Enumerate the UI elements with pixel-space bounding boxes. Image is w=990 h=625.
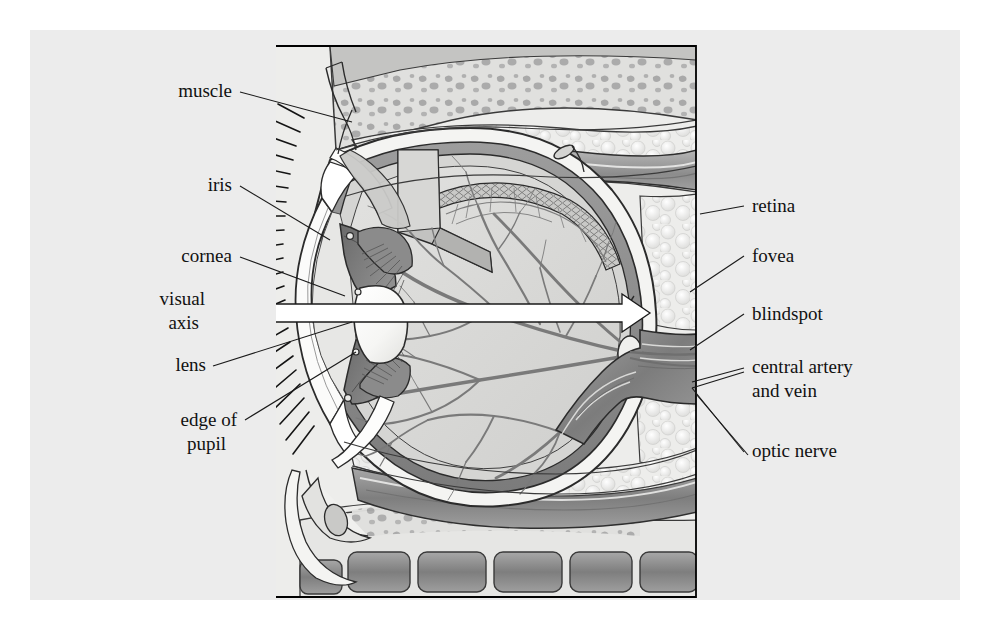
- page-canvas: muscle iris cornea visual axis lens edge…: [0, 0, 990, 625]
- label-visual-axis-line2: axis: [168, 312, 199, 333]
- label-blindspot: blindspot: [752, 303, 823, 324]
- label-cornea: cornea: [181, 245, 232, 266]
- leader-blindspot: [690, 314, 744, 350]
- label-optic-nerve: optic nerve: [752, 440, 837, 461]
- label-edge-of-pupil-line2: pupil: [187, 433, 226, 454]
- label-fovea: fovea: [752, 245, 795, 266]
- label-lens: lens: [175, 354, 206, 375]
- label-visual-axis-line1: visual: [160, 288, 205, 309]
- label-group-right: retina fovea blindspot central artery an…: [752, 195, 853, 461]
- leader-fovea: [690, 256, 744, 292]
- eye-diagram: muscle iris cornea visual axis lens edge…: [0, 0, 990, 625]
- label-iris: iris: [208, 174, 232, 195]
- diagram-content: [250, 40, 702, 602]
- label-central-artery-line2: and vein: [752, 380, 817, 401]
- label-group-left: muscle iris cornea visual axis lens edge…: [160, 80, 238, 454]
- leader-optic-nerve-2: [696, 394, 748, 455]
- label-edge-of-pupil-line1: edge of: [181, 409, 238, 430]
- label-central-artery-line1: central artery: [752, 356, 853, 377]
- leader-retina: [700, 206, 744, 214]
- label-retina: retina: [752, 195, 796, 216]
- lens: [354, 286, 408, 364]
- label-muscle: muscle: [178, 80, 232, 101]
